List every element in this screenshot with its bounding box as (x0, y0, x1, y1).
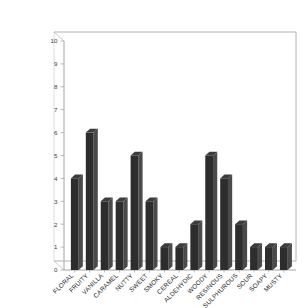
bar-side-face (168, 243, 172, 270)
y-tick-label: 8 (54, 83, 58, 90)
bar-side-face (109, 198, 113, 270)
y-tick-label: 4 (54, 175, 58, 182)
bar (220, 178, 228, 270)
y-tick-label: 1 (54, 243, 58, 250)
y-tick-label: 9 (54, 60, 58, 67)
bar (250, 247, 258, 270)
bar (131, 156, 139, 271)
y-tick-label: 7 (54, 106, 58, 113)
bar (265, 247, 273, 270)
bar-side-face (123, 198, 127, 270)
bar (190, 224, 198, 270)
bar (71, 178, 79, 270)
bar (175, 247, 183, 270)
bar-side-face (138, 152, 142, 270)
bar-side-face (273, 243, 277, 270)
bar-side-face (243, 220, 247, 270)
x-axis: FLORALFRUITYVANILLACARAMELNUTTYSWEETSMOK… (51, 270, 284, 308)
bar (205, 156, 213, 271)
bar (160, 247, 168, 270)
bar-side-face (198, 220, 202, 270)
bar (146, 201, 154, 270)
bar-side-face (258, 243, 262, 270)
bar-side-face (79, 175, 83, 270)
bar (101, 201, 109, 270)
y-tick-label: 3 (54, 198, 58, 205)
y-tick-label: 0 (54, 266, 58, 273)
y-tick-label: 2 (54, 221, 58, 228)
bar (116, 201, 124, 270)
y-tick-label: 6 (54, 129, 58, 136)
bar-chart: 012345678910 FLORALFRUITYVANILLACARAMELN… (0, 0, 306, 308)
bar-side-face (213, 152, 217, 270)
bar-side-face (288, 243, 292, 270)
bar-side-face (94, 129, 98, 270)
bar-side-face (183, 243, 187, 270)
chart-canvas: 012345678910 FLORALFRUITYVANILLACARAMELN… (0, 0, 306, 308)
bar-side-face (153, 198, 157, 270)
y-tick-label: 10 (51, 37, 58, 44)
bar-side-face (228, 175, 232, 270)
bar (280, 247, 288, 270)
bar (235, 224, 243, 270)
bar (86, 133, 94, 270)
y-tick-label: 5 (54, 152, 58, 159)
